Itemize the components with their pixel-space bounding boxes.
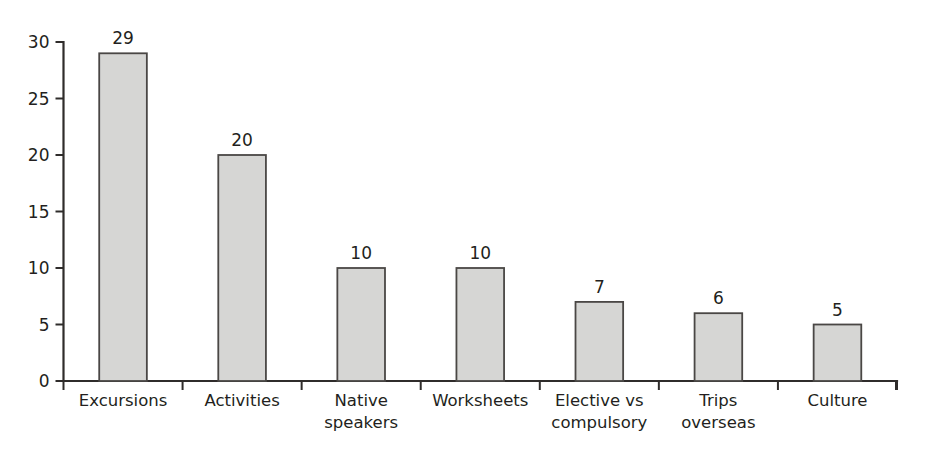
y-axis-tick-label: 0 [39,371,50,391]
plot-area: 051015202530 29201010765 ExcursionsActiv… [0,0,929,463]
bar [695,313,743,381]
bar-value-label: 10 [469,243,491,263]
bar-series [99,53,861,381]
bar-value-label: 29 [112,28,134,48]
x-axis-ticks [64,381,898,390]
bar-value-label: 7 [594,277,605,297]
x-axis-category-label: Excursions [79,391,168,410]
bar [218,155,266,381]
x-axis-category-label: Trips [698,391,737,410]
y-axis-tick-label: 10 [28,258,50,278]
bar [576,302,624,381]
chart-canvas: 051015202530 29201010765 ExcursionsActiv… [0,0,929,463]
bar-chart: 051015202530 29201010765 ExcursionsActiv… [0,0,929,463]
x-axis-category-label: Elective vs [555,391,644,410]
bar [99,53,147,381]
y-axis-tick-label: 15 [28,202,50,222]
bar-value-label: 10 [350,243,372,263]
x-axis-category-label: compulsory [551,413,647,432]
bar-value-label: 20 [231,130,253,150]
y-axis-tick-label: 5 [39,315,50,335]
bar-value-label: 5 [832,300,843,320]
bar-value-label: 6 [713,288,724,308]
y-axis-tick-label: 25 [28,89,50,109]
bar [337,268,385,381]
x-axis-category-label: speakers [324,413,398,432]
y-axis-ticks [56,42,64,381]
bar [814,325,862,382]
y-axis-tick-label: 30 [28,32,50,52]
bar [456,268,504,381]
x-axis-category-label: overseas [681,413,755,432]
x-axis-category-label: Culture [807,391,867,410]
x-axis-category-labels: ExcursionsActivitiesNativespeakersWorksh… [79,391,868,432]
x-axis-category-label: Activities [204,391,279,410]
x-axis-category-label: Worksheets [432,391,528,410]
x-axis-category-label: Native [334,391,387,410]
y-axis-labels: 051015202530 [28,32,50,391]
y-axis-tick-label: 20 [28,145,50,165]
